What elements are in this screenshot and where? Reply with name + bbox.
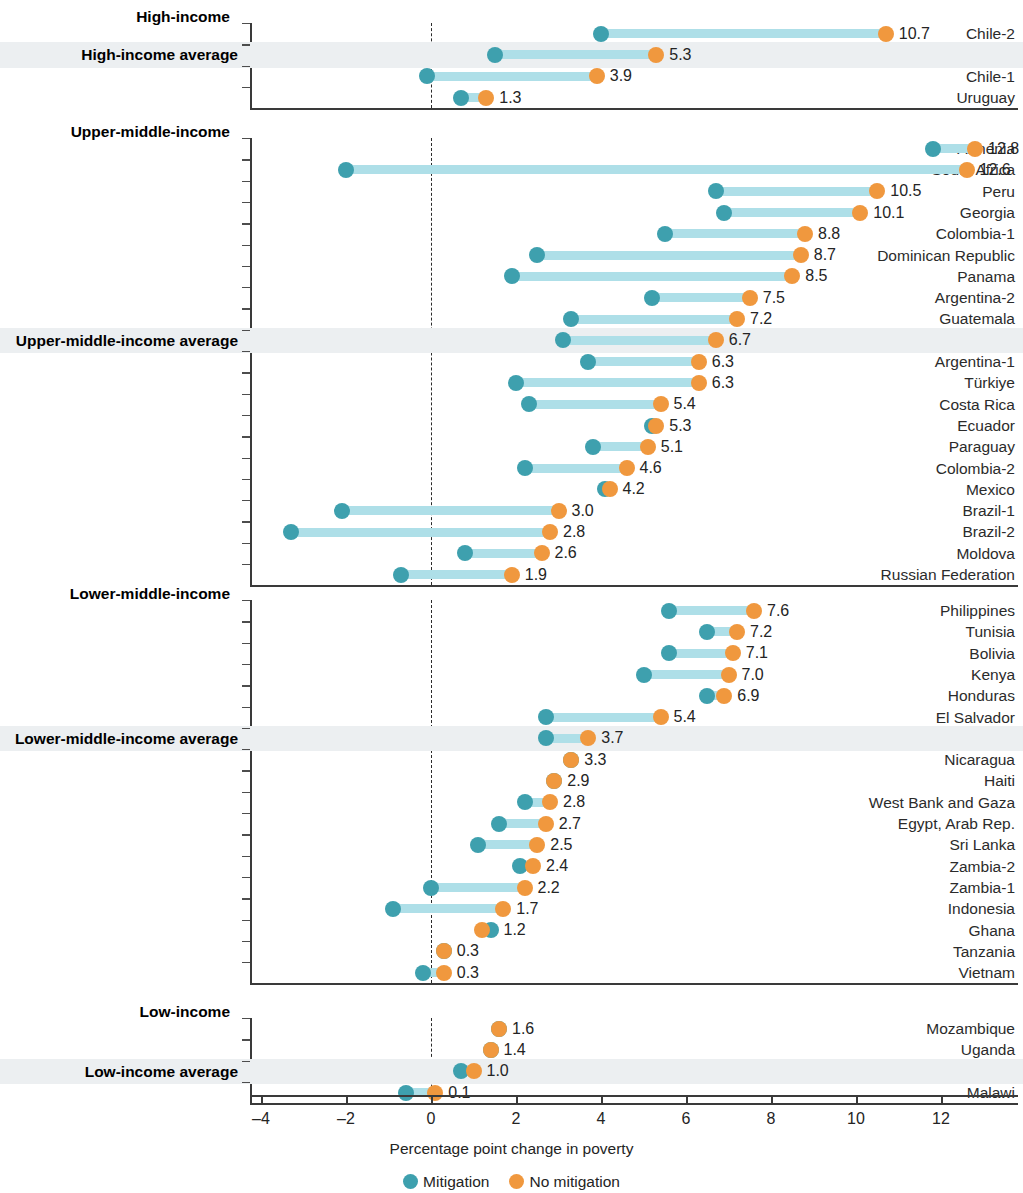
category-tick xyxy=(242,856,250,857)
legend-label: Mitigation xyxy=(423,1173,489,1190)
row-label: Brazil-2 xyxy=(785,521,1023,542)
connector-line xyxy=(644,670,729,679)
mitigation-dot xyxy=(398,1085,414,1101)
no-mitigation-dot xyxy=(793,247,809,263)
row-label: Bolivia xyxy=(785,643,1023,664)
no-mitigation-dot xyxy=(721,667,737,683)
connector-line xyxy=(716,187,878,196)
chart-row: Uruguay1.3 xyxy=(0,87,1023,108)
no-mitigation-dot xyxy=(580,730,596,746)
chart-row: Armenia12.8 xyxy=(0,138,1023,159)
x-axis-tick xyxy=(261,1097,263,1105)
chart-row: Zambia-22.4 xyxy=(0,856,1023,877)
mitigation-dot xyxy=(657,226,673,242)
value-label: 2.6 xyxy=(555,545,577,561)
row-label: Indonesia xyxy=(785,898,1023,919)
value-label: 0.3 xyxy=(457,965,479,981)
chart-row: Panama8.5 xyxy=(0,266,1023,287)
no-mitigation-dot xyxy=(551,503,567,519)
x-axis-tick xyxy=(601,1097,603,1105)
dumbbell-chart: High-incomeChile-210.7High-income averag… xyxy=(0,0,1023,1193)
mitigation-dot xyxy=(517,794,533,810)
no-mitigation-dot xyxy=(491,1021,507,1037)
connector-line xyxy=(427,72,597,81)
mitigation-dot xyxy=(283,524,299,540)
legend-swatch-1 xyxy=(509,1174,524,1189)
category-tick xyxy=(242,479,250,480)
value-label: 2.9 xyxy=(567,773,589,789)
chart-row: West Bank and Gaza2.8 xyxy=(0,792,1023,813)
no-mitigation-dot xyxy=(797,226,813,242)
mitigation-dot xyxy=(453,90,469,106)
value-label: 7.5 xyxy=(763,290,785,306)
chart-row: Low-income average1.0 xyxy=(0,1061,1023,1082)
x-axis-tick-label: –2 xyxy=(326,1111,366,1127)
chart-row: Dominican Republic8.7 xyxy=(0,245,1023,266)
category-tick xyxy=(242,643,250,644)
mitigation-dot xyxy=(529,247,545,263)
no-mitigation-dot xyxy=(746,603,762,619)
chart-row: Colombia-24.6 xyxy=(0,458,1023,479)
no-mitigation-dot xyxy=(529,837,545,853)
chart-row: Tanzania0.3 xyxy=(0,941,1023,962)
row-label: Mexico xyxy=(785,479,1023,500)
chart-row: El Salvador5.4 xyxy=(0,707,1023,728)
chart-row: Brazil-13.0 xyxy=(0,500,1023,521)
value-label: 2.7 xyxy=(559,816,581,832)
mitigation-dot xyxy=(699,624,715,640)
no-mitigation-dot xyxy=(436,943,452,959)
no-mitigation-dot xyxy=(525,858,541,874)
value-label: 1.0 xyxy=(487,1063,509,1079)
category-tick xyxy=(242,266,250,267)
row-label: Lower-middle-income average xyxy=(0,728,246,749)
row-label: Malawi xyxy=(785,1082,1023,1103)
row-label: Russian Federation xyxy=(785,564,1023,585)
category-tick xyxy=(242,920,250,921)
category-tick xyxy=(242,877,250,878)
chart-row: High-income average5.3 xyxy=(0,44,1023,65)
legend-item-1: No mitigation xyxy=(509,1173,619,1191)
category-tick xyxy=(242,87,250,88)
row-label: Moldova xyxy=(785,543,1023,564)
legend-label: No mitigation xyxy=(529,1173,619,1190)
chart-row: Zambia-12.2 xyxy=(0,877,1023,898)
value-label: 2.8 xyxy=(563,524,585,540)
row-label: Haiti xyxy=(785,770,1023,791)
chart-row: Mozambique1.6 xyxy=(0,1018,1023,1039)
value-label: 5.4 xyxy=(674,396,696,412)
no-mitigation-dot xyxy=(427,1085,443,1101)
chart-row: Tunisia7.2 xyxy=(0,621,1023,642)
value-label: 7.2 xyxy=(750,624,772,640)
value-label: 4.6 xyxy=(640,460,662,476)
chart-row: Lower-middle-income average3.7 xyxy=(0,728,1023,749)
category-tick xyxy=(242,749,250,750)
chart-row: Moldova2.6 xyxy=(0,543,1023,564)
category-tick xyxy=(242,792,250,793)
row-label: Honduras xyxy=(785,685,1023,706)
row-label: Argentina-1 xyxy=(785,351,1023,372)
x-axis-tick xyxy=(941,1097,943,1105)
no-mitigation-dot xyxy=(640,439,656,455)
mitigation-dot xyxy=(636,667,652,683)
category-tick xyxy=(242,1039,250,1040)
value-label: 5.1 xyxy=(661,439,683,455)
no-mitigation-dot xyxy=(466,1063,482,1079)
value-label: 3.7 xyxy=(601,730,623,746)
row-label: Chile-1 xyxy=(785,66,1023,87)
x-axis-tick-label: 4 xyxy=(581,1111,621,1127)
category-tick xyxy=(242,1082,250,1083)
mitigation-dot xyxy=(415,965,431,981)
mitigation-dot xyxy=(708,183,724,199)
category-tick xyxy=(242,223,250,224)
row-label: Tanzania xyxy=(785,941,1023,962)
chart-row: Peru10.5 xyxy=(0,181,1023,202)
value-label: 3.0 xyxy=(572,503,594,519)
connector-line xyxy=(516,378,699,387)
chart-row: Chile-13.9 xyxy=(0,66,1023,87)
category-tick xyxy=(242,685,250,686)
no-mitigation-dot xyxy=(653,396,669,412)
no-mitigation-dot xyxy=(542,524,558,540)
value-label: 1.9 xyxy=(525,567,547,583)
no-mitigation-dot xyxy=(517,880,533,896)
x-axis-tick-label: 12 xyxy=(921,1111,961,1127)
